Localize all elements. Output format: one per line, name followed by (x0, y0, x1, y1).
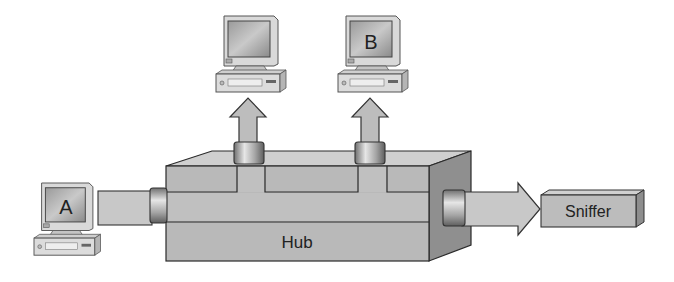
computer-b: B (338, 16, 408, 92)
hub-label: Hub (281, 233, 312, 252)
arrow-hub-to-sniffer (462, 183, 540, 235)
hub-port-top-left (234, 142, 264, 164)
computer-unlabeled (216, 16, 286, 92)
hub-port-right (443, 190, 465, 226)
hub-port-left (150, 188, 167, 223)
hub-sniffer-diagram: B Hub (0, 0, 674, 282)
computer-a: A (34, 183, 101, 255)
sniffer: Sniffer (541, 190, 644, 227)
sniffer-label: Sniffer (565, 203, 612, 220)
arrow-up-to-computer-unlabeled (230, 98, 266, 145)
hub: Hub (166, 151, 471, 261)
hub-port-top-right (355, 142, 385, 164)
arrow-up-to-computer-b (352, 98, 388, 145)
computer-a-label: A (59, 196, 73, 218)
pipe-computer-a-to-hub (98, 191, 152, 225)
computer-b-label: B (364, 31, 377, 53)
